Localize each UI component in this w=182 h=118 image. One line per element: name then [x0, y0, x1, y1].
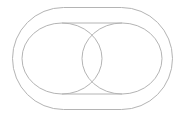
right-ellipse [82, 23, 162, 94]
diagram-canvas [0, 0, 182, 118]
left-ellipse [22, 23, 102, 94]
stadium-venn-diagram [0, 0, 182, 118]
